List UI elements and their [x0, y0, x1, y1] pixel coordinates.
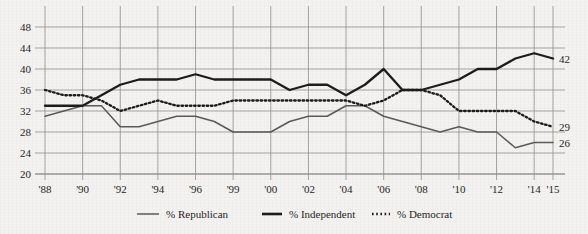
party-identification-trend-chart: 2024283236404448 '88'90'92'94'96'99'00'0… [0, 0, 588, 234]
x-axis-tick-label: '90 [76, 183, 89, 195]
x-axis-tick-label: '02 [302, 183, 315, 195]
x-axis-tick-label: '92 [114, 183, 127, 195]
x-axis: '88'90'92'94'96'99'00'02'04'06'08'10'12'… [39, 183, 560, 195]
gridlines [35, 6, 565, 180]
chart-legend: % Republican% Independent% Democrat [137, 208, 452, 220]
x-axis-tick-label: '04 [340, 183, 353, 195]
y-axis-tick-label: 40 [20, 63, 32, 75]
x-axis-tick-label: '12 [490, 183, 503, 195]
x-axis-tick-label: '15 [547, 183, 560, 195]
end-value-label-republican: 26 [559, 137, 571, 149]
x-axis-tick-label: '06 [377, 183, 390, 195]
y-axis-tick-label: 28 [20, 126, 32, 138]
y-axis-tick-label: 32 [20, 105, 31, 117]
x-axis-tick-label: '88 [39, 183, 52, 195]
chart-canvas: 2024283236404448 '88'90'92'94'96'99'00'0… [0, 0, 588, 234]
series-line-democrat [45, 90, 553, 127]
data-series [45, 53, 553, 148]
x-axis-tick-label: '08 [415, 183, 428, 195]
x-axis-tick-label: '94 [151, 183, 164, 195]
end-value-label-independent: 42 [559, 53, 570, 65]
y-axis-tick-label: 48 [20, 21, 32, 33]
x-axis-tick-label: '99 [227, 183, 240, 195]
y-axis-tick-label: 20 [20, 168, 32, 180]
x-axis-tick-label: '14 [528, 183, 541, 195]
y-axis-tick-label: 44 [20, 42, 32, 54]
y-axis: 2024283236404448 [20, 21, 32, 180]
y-axis-tick-label: 24 [20, 147, 32, 159]
legend-label-republican: % Republican [166, 208, 229, 220]
y-axis-tick-label: 36 [20, 84, 32, 96]
legend-label-independent: % Independent [289, 208, 355, 220]
series-line-independent [45, 53, 553, 106]
x-axis-tick-label: '96 [189, 183, 202, 195]
end-value-label-democrat: 29 [559, 121, 571, 133]
legend-label-democrat: % Democrat [397, 208, 452, 220]
end-value-labels: 264229 [559, 53, 571, 149]
x-axis-tick-label: '10 [452, 183, 465, 195]
x-axis-tick-label: '00 [264, 183, 277, 195]
